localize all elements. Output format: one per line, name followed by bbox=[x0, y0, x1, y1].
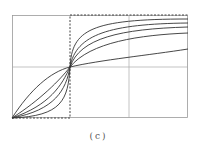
step-reference-line bbox=[12, 15, 188, 118]
figure-caption: (c) bbox=[0, 131, 197, 141]
plot-frame bbox=[13, 16, 188, 118]
curve-family bbox=[12, 19, 188, 118]
